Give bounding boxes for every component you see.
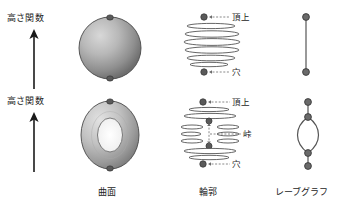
height-function-label-bottom: 高さ関数 — [7, 97, 44, 106]
torus-reeb-graph — [290, 97, 326, 173]
sphere-reeb-graph — [294, 11, 318, 77]
sphere-surface — [76, 11, 144, 85]
reeb-graph-figure: 高さ関数 — [0, 0, 354, 211]
torus-contour-levels — [182, 97, 252, 173]
sphere-pit-label: 穴 — [232, 68, 241, 77]
torus-surface — [74, 97, 146, 173]
up-arrow-icon-top — [24, 27, 44, 89]
torus-summit-label: 頂上 — [232, 98, 250, 107]
up-arrow-icon-bottom — [24, 110, 44, 172]
torus-saddle-label: 峠 — [243, 130, 252, 139]
sphere-summit-label: 頂上 — [232, 13, 250, 22]
torus-pit-label: 穴 — [232, 160, 241, 169]
column-caption-contour: 輪郭 — [199, 185, 217, 198]
height-function-label-top: 高さ関数 — [7, 14, 44, 23]
column-caption-surface: 曲面 — [98, 185, 116, 198]
column-caption-reeb: レーブグラフ — [275, 185, 328, 198]
